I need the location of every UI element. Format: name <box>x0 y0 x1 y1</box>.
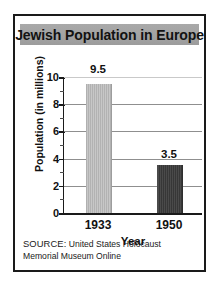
source-label: SOURCE: <box>23 238 66 249</box>
chart-figure: Jewish Population in Europe Population (… <box>13 14 206 272</box>
y-tick-0: 0 <box>39 207 59 219</box>
x-axis-line <box>59 213 202 215</box>
source-note: SOURCE: United States Holocaust Memorial… <box>23 238 193 262</box>
x-tick-1933: 1933 <box>85 218 112 232</box>
y-tick-4: 4 <box>39 153 59 165</box>
y-tick-8: 8 <box>39 98 59 110</box>
bar-1933 <box>86 84 112 213</box>
y-tick-10: 10 <box>39 71 59 83</box>
y-tick-6: 6 <box>39 125 59 137</box>
bar-series: 9.5 3.5 <box>64 77 202 213</box>
bar-value-1950: 3.5 <box>161 148 177 160</box>
x-tick-1950: 1950 <box>156 218 183 232</box>
x-axis-tick-labels: 1933 1950 <box>64 218 202 234</box>
y-tick-2: 2 <box>39 180 59 192</box>
y-axis-tick-labels: 10 8 6 4 2 0 <box>39 50 59 186</box>
bar-1950 <box>157 165 183 213</box>
chart-title-band: Jewish Population in Europe <box>20 24 199 45</box>
bar-value-1933: 9.5 <box>90 63 106 75</box>
page-title: Jewish Population in Europe <box>15 27 204 43</box>
plot-area: Population (in millions) 10 8 6 4 2 0 <box>15 50 204 236</box>
